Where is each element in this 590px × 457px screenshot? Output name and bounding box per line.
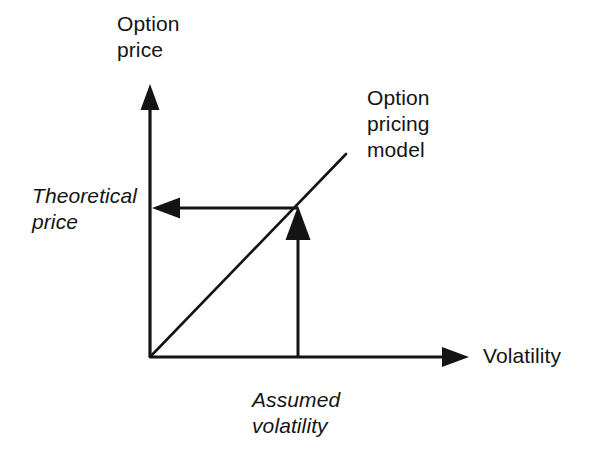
- y-axis-label: Option price: [117, 11, 179, 63]
- input-arrow: [286, 206, 311, 357]
- y-axis-arrowhead-icon: [141, 84, 160, 110]
- theoretical-price-label: Theoretical price: [32, 183, 137, 235]
- model-line: [150, 154, 346, 357]
- assumed-volatility-label: Assumed volatility: [252, 387, 340, 439]
- x-axis-arrowhead-icon: [442, 347, 469, 367]
- output-arrowhead-icon: [152, 198, 180, 219]
- model-line-label: Option pricing model: [367, 85, 430, 163]
- x-axis-label: Volatility: [483, 343, 561, 369]
- output-arrow: [152, 198, 298, 219]
